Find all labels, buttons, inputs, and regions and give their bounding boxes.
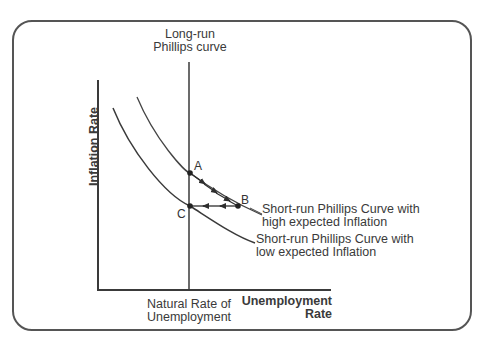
- short-run-high-line2: high expected Inflation: [262, 216, 420, 229]
- arrow-a-b-3: [216, 193, 230, 201]
- point-a-label: A: [194, 160, 202, 173]
- long-run-curve-label: Long-run Phillips curve: [150, 28, 230, 54]
- y-axis-label: Inflation Rate: [88, 97, 101, 197]
- long-run-label-line2: Phillips curve: [150, 41, 230, 54]
- short-run-low-line2: low expected Inflation: [256, 246, 414, 259]
- phillips-curve-diagram: [0, 0, 481, 344]
- point-b-marker: [235, 203, 241, 209]
- point-c-label: C: [177, 208, 186, 221]
- arrow-a-b-2: [204, 184, 217, 193]
- x-axis-label-line2: Rate: [240, 308, 332, 321]
- x-axis-label: Unemployment Rate: [240, 295, 332, 321]
- short-run-high-label: Short-run Phillips Curve with high expec…: [262, 203, 420, 229]
- short-run-curve-low: [113, 108, 255, 243]
- short-run-low-label: Short-run Phillips Curve with low expect…: [256, 233, 414, 259]
- natural-rate-line2: Unemployment: [147, 311, 231, 324]
- point-a-marker: [187, 170, 193, 176]
- natural-rate-label: Natural Rate of Unemployment: [147, 298, 231, 324]
- point-b-label: B: [241, 194, 249, 207]
- point-c-marker: [187, 203, 193, 209]
